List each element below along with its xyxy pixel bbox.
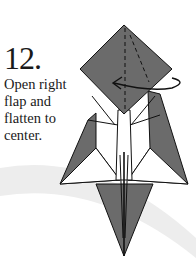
origami-diagram (0, 0, 196, 273)
